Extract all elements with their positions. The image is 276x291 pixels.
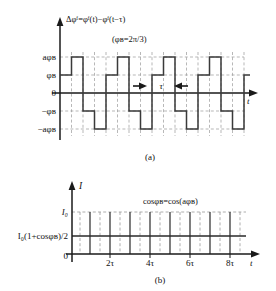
panel-b-y-axis [69,181,76,262]
panel-a-annotation: (φʙ=2π/3) [112,34,147,44]
panel-a-ytick-4: −aφʙ [37,124,56,134]
panel-a-ytick-3: −φʙ [41,106,56,116]
panel-a-ytick-2: 0 [52,88,57,98]
panel-b-y-axis-label: I [78,181,83,191]
panel-b-ytick-0: I₀ [61,207,68,217]
panel-b-ytick-2: 0 [64,251,69,261]
panel-b-annotation: cosφʙ=cos(aφʙ) [143,196,198,206]
panel-a: τ Δφᶠ=φᶠ(t)−φᶠ(t−τ) (φʙ=2π/3) t aφʙ φʙ 0… [37,14,258,162]
panel-a-ytick-1: φʙ [47,70,56,80]
panel-b-xtick-1: 4τ [146,258,155,268]
panel-a-x-axis-label: t [247,96,250,106]
panel-b: I cosφʙ=cos(aφʙ) I₀ I₀(1+cosφʙ)/2 0 2τ 4… [18,181,260,285]
panel-a-y-axis [57,17,64,140]
panel-b-x-axis-label: t [250,258,253,268]
panel-b-x-axis [66,251,260,258]
panel-b-pulse-edges [80,212,240,254]
panel-a-vgrid [72,52,245,136]
panel-b-caption: (b) [155,275,166,285]
panel-a-y-axis-label: Δφᶠ=φᶠ(t)−φᶠ(t−τ) [66,14,126,24]
panel-a-caption: (a) [145,152,155,162]
panel-b-xtick-3: 8τ [226,258,235,268]
panel-b-xtick-0: 2τ [106,258,115,268]
figure-root: τ Δφᶠ=φᶠ(t)−φᶠ(t−τ) (φʙ=2π/3) t aφʙ φʙ 0… [0,0,276,291]
panel-a-ytick-0: aφʙ [43,52,56,62]
panel-b-ytick-1: I₀(1+cosφʙ)/2 [18,231,68,241]
panel-b-xtick-2: 6τ [186,258,195,268]
panel-a-tau-label: τ [159,81,163,91]
